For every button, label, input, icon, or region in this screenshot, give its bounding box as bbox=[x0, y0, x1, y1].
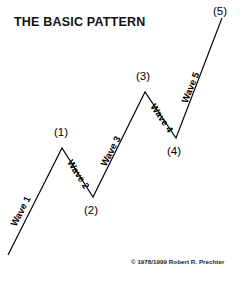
elliott-wave-figure: THE BASIC PATTERN (1) (2) (3) (4) (5) Wa… bbox=[0, 0, 245, 286]
pivot-label-2: (2) bbox=[84, 204, 98, 216]
wave-chart-svg bbox=[0, 0, 245, 286]
pivot-label-1: (1) bbox=[54, 126, 68, 138]
pivot-label-4: (4) bbox=[167, 145, 181, 157]
pivot-label-3: (3) bbox=[136, 70, 150, 82]
pivot-label-5: (5) bbox=[213, 5, 227, 17]
copyright-notice: © 1978/1999 Robert R. Prechter bbox=[131, 258, 224, 265]
